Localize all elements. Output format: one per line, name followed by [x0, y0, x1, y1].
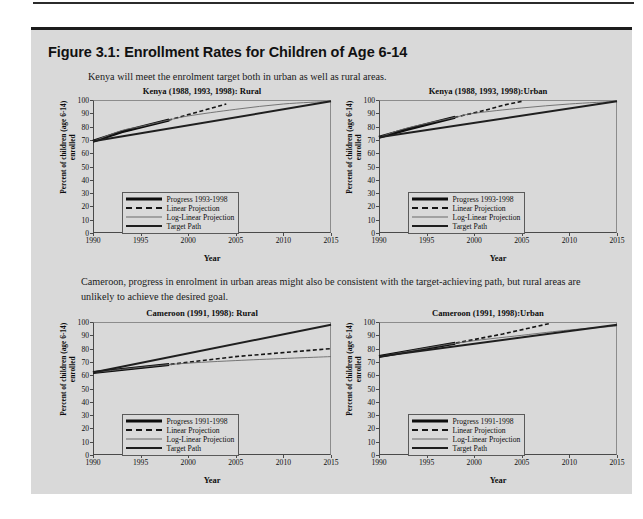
- x-tick-label: 1990: [85, 236, 100, 245]
- y-tick-label: 100: [78, 96, 89, 105]
- y-tick-label: 90: [367, 331, 375, 340]
- y-tick-label: 10: [81, 215, 89, 224]
- y-axis-label: Percent of children (age 6-14) enrolled: [59, 80, 78, 215]
- x-tick-label: 2015: [609, 236, 624, 245]
- x-axis-label: Year: [379, 254, 617, 263]
- y-tick-label: 50: [367, 384, 375, 393]
- y-tick-label: 30: [81, 411, 89, 420]
- page-top-rule: [33, 2, 634, 4]
- y-tick-label: 70: [81, 357, 89, 366]
- legend-label-progress: Progress 1991-1998: [167, 417, 228, 426]
- y-tick-label: 30: [81, 189, 89, 198]
- y-tick-label: 80: [367, 122, 375, 131]
- progress-line-swatch-icon: [126, 417, 162, 426]
- y-tick-label: 40: [367, 397, 375, 406]
- y-tick-label: 100: [78, 318, 89, 327]
- loglinear-thin-line-swatch-icon: [412, 213, 448, 222]
- y-tick-label: 70: [81, 135, 89, 144]
- x-tick-label: 1990: [371, 236, 386, 245]
- y-axis-label-line1: Percent of children (age 6-14): [345, 323, 354, 416]
- plot-wrap: 0102030405060708090100199019952000200520…: [379, 322, 617, 455]
- x-tick-mark: [93, 233, 94, 236]
- y-axis-label-line2: enrolled: [69, 134, 78, 160]
- linear-dashed-line-swatch-icon: [412, 204, 448, 213]
- y-tick-label: 80: [81, 122, 89, 131]
- legend-label-target: Target Path: [453, 222, 488, 231]
- x-tick-label: 1995: [133, 458, 148, 467]
- legend-row-linear: Linear Projection: [126, 204, 235, 213]
- legend-row-linear: Linear Projection: [412, 204, 521, 213]
- y-tick-label: 30: [367, 411, 375, 420]
- y-tick-label: 50: [81, 162, 89, 171]
- x-axis-label: Year: [93, 476, 331, 485]
- x-tick-label: 2015: [323, 458, 338, 467]
- y-tick-label: 100: [364, 96, 375, 105]
- series-path: [93, 325, 331, 373]
- y-tick-label: 90: [81, 331, 89, 340]
- legend-label-target: Target Path: [167, 222, 202, 231]
- plot-wrap: 0102030405060708090100199019952000200520…: [93, 322, 331, 455]
- x-tick-label: 2010: [562, 236, 577, 245]
- x-tick-mark: [379, 233, 380, 236]
- legend-row-progress: Progress 1993-1998: [412, 195, 521, 204]
- y-tick-label: 60: [81, 149, 89, 158]
- legend-row-target: Target Path: [412, 222, 521, 231]
- legend-row-loglinear: Log-Linear Projection: [126, 435, 235, 444]
- y-tick-label: 40: [367, 175, 375, 184]
- y-tick-label: 50: [367, 162, 375, 171]
- legend: Progress 1991-1998 Linear Projection Log…: [408, 414, 526, 456]
- chart-title: Kenya (1988, 1993, 1998):Urban: [343, 86, 633, 96]
- loglinear-thin-line-swatch-icon: [412, 435, 448, 444]
- y-tick-label: 90: [367, 109, 375, 118]
- linear-dashed-line-swatch-icon: [126, 204, 162, 213]
- x-tick-mark: [331, 233, 332, 236]
- legend-label-loglinear: Log-Linear Projection: [453, 435, 521, 444]
- series-path: [379, 325, 617, 357]
- legend-row-target: Target Path: [412, 444, 521, 453]
- y-tick-label: 90: [81, 109, 89, 118]
- y-tick-label: 10: [367, 437, 375, 446]
- y-tick-label: 20: [81, 202, 89, 211]
- legend-row-progress: Progress 1993-1998: [126, 195, 235, 204]
- x-tick-mark: [569, 233, 570, 236]
- paragraph-cameroon: Cameroon, progress in enrolment in urban…: [81, 275, 611, 305]
- x-tick-mark: [283, 233, 284, 236]
- plot-wrap: 0102030405060708090100199019952000200520…: [93, 100, 331, 233]
- y-tick-label: 80: [81, 344, 89, 353]
- legend-row-loglinear: Log-Linear Projection: [126, 213, 235, 222]
- y-tick-label: 100: [364, 318, 375, 327]
- chart-title: Kenya (1988, 1993, 1998): Rural: [57, 86, 347, 96]
- x-tick-mark: [617, 455, 618, 458]
- legend-label-linear: Linear Projection: [453, 426, 506, 435]
- legend-label-target: Target Path: [453, 444, 488, 453]
- loglinear-thin-line-swatch-icon: [126, 435, 162, 444]
- chart-kenya-urban: Kenya (1988, 1993, 1998):Urban Percent o…: [343, 86, 633, 271]
- y-tick-label: 40: [81, 397, 89, 406]
- x-tick-label: 1995: [419, 458, 434, 467]
- chart-title: Cameroon (1991, 1998): Rural: [57, 308, 347, 318]
- y-tick-label: 30: [367, 189, 375, 198]
- x-tick-label: 1995: [419, 236, 434, 245]
- legend-row-linear: Linear Projection: [126, 426, 235, 435]
- legend-row-loglinear: Log-Linear Projection: [412, 213, 521, 222]
- chart-kenya-rural: Kenya (1988, 1993, 1998): Rural Percent …: [57, 86, 347, 271]
- x-tick-mark: [379, 455, 380, 458]
- x-tick-label: 1990: [371, 458, 386, 467]
- series-path: [379, 101, 617, 137]
- legend-row-target: Target Path: [126, 444, 235, 453]
- x-tick-label: 2015: [323, 236, 338, 245]
- progress-line-swatch-icon: [412, 417, 448, 426]
- linear-dashed-line-swatch-icon: [126, 426, 162, 435]
- x-tick-label: 1995: [133, 236, 148, 245]
- linear-dashed-line-swatch-icon: [412, 426, 448, 435]
- x-axis-label: Year: [93, 254, 331, 263]
- legend-label-target: Target Path: [167, 444, 202, 453]
- x-tick-label: 2005: [228, 458, 243, 467]
- legend-row-progress: Progress 1991-1998: [412, 417, 521, 426]
- progress-line-swatch-icon: [412, 195, 448, 204]
- y-tick-label: 10: [367, 215, 375, 224]
- legend-label-linear: Linear Projection: [167, 204, 220, 213]
- progress-line-swatch-icon: [126, 195, 162, 204]
- y-axis-label: Percent of children (age 6-14) enrolled: [59, 302, 78, 437]
- y-tick-label: 20: [81, 424, 89, 433]
